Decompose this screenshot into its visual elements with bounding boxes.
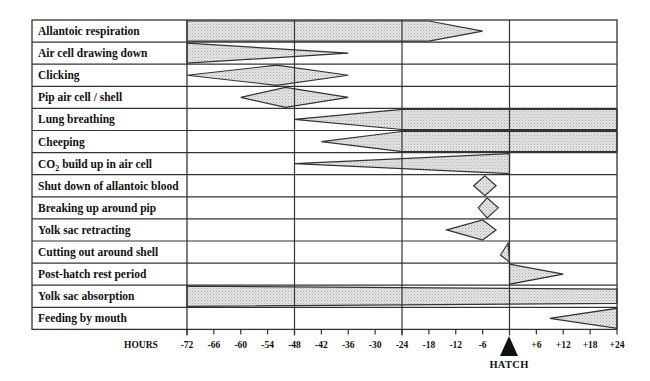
row-label: Air cell drawing down [38,42,147,64]
tick-label: -60 [234,340,247,350]
event-shape [510,264,564,284]
event-shape [187,65,348,85]
tick-label: -30 [369,340,382,350]
tick-label: -42 [315,340,328,350]
row-label: Pip air cell / shell [38,86,122,108]
row-label: Cutting out around shell [38,241,158,263]
tick-label: -66 [208,340,221,350]
event-shape [187,21,483,41]
event-shape [550,308,617,328]
event-shape [501,243,510,262]
tick-label: +18 [583,340,598,350]
row-label: Yolk sac absorption [38,285,135,307]
hatch-label: HATCH [489,359,528,370]
tick-label: -48 [288,340,301,350]
row-label: Shut down of allantoic blood [38,175,179,197]
tick-label: -72 [181,340,194,350]
axis-label-hours: HOURS [124,340,158,350]
event-shape [474,176,496,196]
event-shape [478,198,498,218]
axis-ticks [187,329,617,334]
tick-label: -6 [479,340,487,350]
tick-label: -24 [396,340,409,350]
row-label: Feeding by mouth [38,307,127,329]
event-shape [447,220,496,240]
event-shape [295,109,618,129]
row-label: Yolk sac retracting [38,219,130,241]
row-label: Allantoic respiration [38,20,140,42]
tick-label: -54 [261,340,274,350]
event-shape [321,132,617,152]
tick-label: -36 [342,340,355,350]
row-label: Cheeping [38,131,85,153]
tick-label: +24 [610,340,625,350]
row-label: Clicking [38,64,80,86]
tick-label: +6 [531,340,541,350]
row-label: CO2 build up in air cell [38,153,152,175]
hatch-marker-icon [500,336,518,356]
event-shape [187,43,348,63]
tick-label: -12 [449,340,462,350]
tick-label: +12 [556,340,571,350]
row-label: Lung breathing [38,108,115,130]
row-label: Breaking up around pip [38,197,156,219]
row-label: Post-hatch rest period [38,263,146,285]
tick-label: -18 [423,340,436,350]
